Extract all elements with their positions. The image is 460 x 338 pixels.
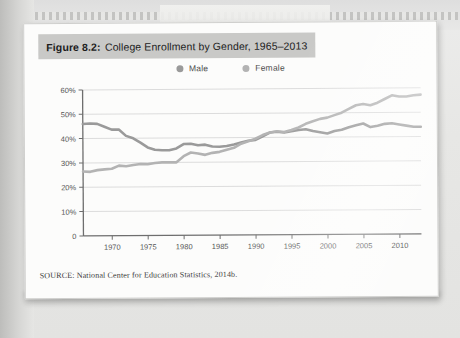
legend-marker-male [176,65,183,72]
y-tick-label: 0 [72,232,76,241]
figure-label: Figure 8.2: [46,41,100,53]
gridline [83,112,421,114]
x-tick-label: 1985 [212,242,229,251]
y-tick-label: 60% [61,86,76,95]
series-line-male [83,121,421,150]
x-tick-label: 2005 [356,241,373,250]
chart-legend: Male Female [24,62,436,75]
chart-series [83,95,421,172]
gridline [83,210,421,212]
chart-x-ticks: 197019751980198519901995200020052010 [104,234,408,252]
legend-item-male[interactable]: Male [176,63,208,73]
chart-y-ticks: 010%20%30%40%50%60% [61,86,84,241]
line-chart: 010%20%30%40%50%60% 19701975198019851990… [35,80,434,262]
x-tick-label: 2010 [392,241,409,250]
legend-label-male: Male [189,63,208,73]
legend-label-female: Female [255,63,285,73]
gridline [83,185,421,187]
y-tick-label: 10% [61,208,76,217]
x-tick-label: 2000 [320,241,337,250]
x-tick-label: 1990 [248,242,265,251]
gridline [83,88,421,90]
x-axis [83,234,421,236]
source-note: SOURCE: National Center for Education St… [40,270,238,280]
y-tick-label: 50% [61,110,76,119]
figure-page: Figure 8.2: College Enrollment by Gender… [23,21,439,300]
x-tick-label: 1975 [140,242,157,251]
page-title: College Enrollment by Gender, 1965–2013 [105,40,307,53]
figure-title-band: Figure 8.2: College Enrollment by Gender… [38,32,315,59]
y-tick-label: 30% [61,159,76,168]
x-tick-label: 1995 [284,242,301,251]
chart-svg: 010%20%30%40%50%60% 19701975198019851990… [35,80,434,262]
legend-item-female[interactable]: Female [242,63,285,73]
x-tick-label: 1980 [176,242,193,251]
y-tick-label: 20% [61,183,76,192]
x-tick-label: 1970 [104,243,121,252]
y-tick-label: 40% [61,135,76,144]
gridline [83,161,421,163]
series-line-female [83,95,421,172]
legend-marker-female [242,64,249,71]
